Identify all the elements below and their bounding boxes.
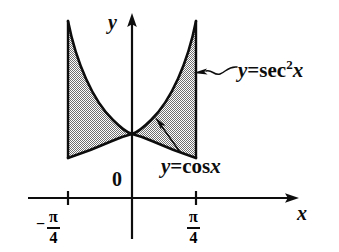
sec-label-func: sec — [259, 58, 286, 82]
x-tick-label-neg-pi-over-4: − π 4 — [47, 209, 60, 247]
cos-label-y: y — [161, 154, 170, 178]
origin-label: 0 — [112, 169, 122, 189]
x-tick-label-pos-pi-over-4: π 4 — [187, 209, 200, 247]
y-axis-label: y — [108, 12, 117, 32]
cos-label-func: cos — [182, 154, 210, 178]
minus-sign: − — [36, 215, 45, 233]
fraction-numerator: π — [187, 209, 200, 226]
fraction-denominator: 4 — [47, 230, 60, 247]
fraction-denominator: 4 — [187, 230, 200, 247]
annotation-sec-squared: y=sec2x — [238, 58, 303, 81]
sec-label-equals: = — [247, 58, 259, 82]
x-axis-label: x — [297, 203, 307, 223]
cos-label-equals: = — [170, 154, 182, 178]
figure-area-between-curves: y=sec2x y=cosx y x 0 − π 4 π 4 — [0, 0, 339, 252]
sec-label-y: y — [238, 58, 247, 82]
annotation-cos: y=cosx — [161, 156, 221, 177]
fraction-numerator: π — [47, 209, 60, 226]
sec-label-var: x — [293, 58, 304, 82]
leader-line-sec-squared — [206, 67, 237, 74]
cos-label-var: x — [210, 154, 221, 178]
